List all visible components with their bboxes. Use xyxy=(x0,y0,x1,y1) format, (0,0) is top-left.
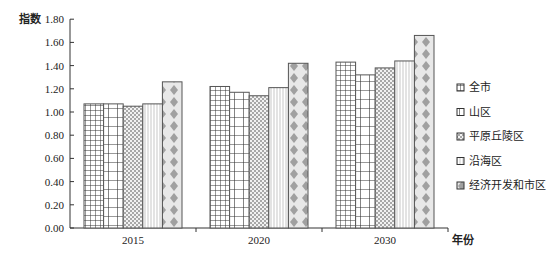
bar-2030-0 xyxy=(336,62,356,228)
bar-2015-2 xyxy=(123,106,143,228)
bar-2030-1 xyxy=(356,75,376,228)
y-tick-label: 0.40 xyxy=(45,176,65,188)
y-tick-label: 1.80 xyxy=(45,13,65,25)
y-tick-label: 1.40 xyxy=(45,60,65,72)
x-tick-label: 2030 xyxy=(374,234,397,246)
bar-2015-3 xyxy=(143,104,163,228)
bar-2020-0 xyxy=(210,86,230,228)
legend-swatch xyxy=(457,133,464,140)
bar-2030-2 xyxy=(375,68,395,228)
bars xyxy=(84,35,434,228)
bar-2015-4 xyxy=(162,82,182,228)
legend-swatch xyxy=(457,109,464,116)
bar-2020-1 xyxy=(230,92,250,228)
legend-label: 山区 xyxy=(469,106,491,118)
x-tick-label: 2020 xyxy=(248,234,271,246)
bar-2020-4 xyxy=(288,63,308,228)
legend-label: 沿海区 xyxy=(469,154,502,167)
y-tick-label: 0.20 xyxy=(45,199,65,211)
legend-swatch xyxy=(457,158,464,165)
y-tick-label: 1.20 xyxy=(45,83,65,95)
bar-2030-3 xyxy=(395,61,415,228)
bar-2020-2 xyxy=(249,96,269,228)
legend-swatch xyxy=(457,84,464,91)
y-tick-label: 0.00 xyxy=(45,222,65,234)
bar-2030-4 xyxy=(414,35,434,228)
x-axis-title: 年份 xyxy=(452,233,475,246)
x-tick-label: 2015 xyxy=(122,234,145,246)
y-tick-label: 1.60 xyxy=(45,36,65,48)
legend-label: 全市 xyxy=(469,80,491,93)
legend-swatch xyxy=(457,182,464,189)
bar-2015-1 xyxy=(104,104,124,228)
bar-chart: 0.000.200.400.600.801.001.201.401.601.80… xyxy=(0,0,556,263)
y-tick-label: 0.80 xyxy=(45,129,65,141)
y-axis-title: 指数 xyxy=(19,12,42,25)
legend-label: 平原丘陵区 xyxy=(469,130,524,142)
bar-2015-0 xyxy=(84,104,104,228)
y-tick-label: 0.60 xyxy=(45,152,65,164)
legend: 全市山区平原丘陵区沿海区经济开发和市区 xyxy=(457,80,546,191)
bar-2020-3 xyxy=(269,88,289,228)
legend-label: 经济开发和市区 xyxy=(469,178,546,191)
y-tick-label: 1.00 xyxy=(45,106,65,118)
